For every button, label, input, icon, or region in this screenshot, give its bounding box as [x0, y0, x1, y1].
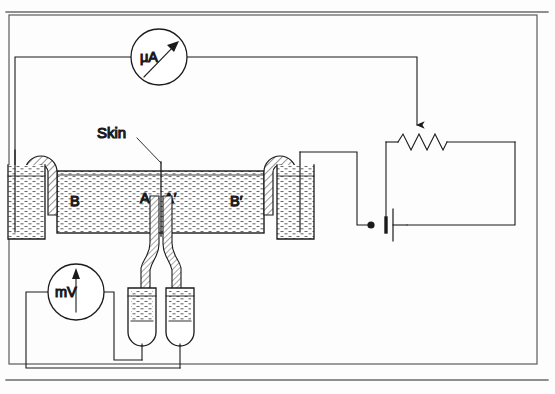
- right-calomel-electrode: [166, 288, 194, 368]
- millivoltmeter: mV: [48, 264, 104, 320]
- microammeter-label: μA: [140, 49, 158, 65]
- skin-callout: Skin: [97, 124, 161, 163]
- battery: [367, 209, 407, 241]
- chamber-label-b-prime: B′: [230, 193, 243, 209]
- diagram-svg: μA: [0, 0, 555, 394]
- millivoltmeter-label: mV: [55, 284, 77, 300]
- figure-canvas: μA: [0, 0, 555, 394]
- resistor-zigzag-icon: [398, 134, 447, 150]
- membrane-label-a: A: [140, 190, 150, 206]
- left-calomel-electrode: [128, 288, 156, 360]
- chamber-label-b: B: [70, 193, 80, 209]
- millivoltmeter-circuit-wire: [26, 292, 180, 368]
- skin-label: Skin: [97, 124, 126, 141]
- microammeter: μA: [131, 29, 187, 85]
- rheostat-battery-circuit: [386, 134, 515, 225]
